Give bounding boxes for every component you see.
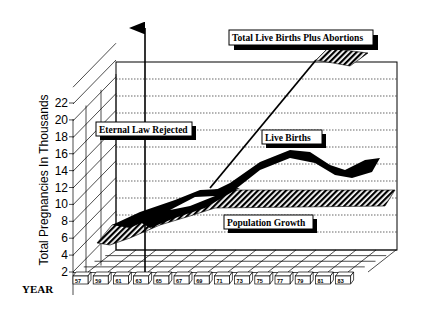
svg-text:Eternal Law Rejected: Eternal Law Rejected — [99, 125, 188, 135]
y-axis-ticks: 246810121416182022 — [55, 96, 74, 279]
x-tick-label: 79 — [297, 278, 303, 284]
y-tick-label: 6 — [61, 231, 68, 245]
x-tick-label: 73 — [237, 278, 243, 284]
svg-text:Total Live Births Plus Abortio: Total Live Births Plus Abortions — [232, 33, 363, 43]
x-tick-label: 81 — [317, 278, 323, 284]
y-tick-label: 22 — [55, 96, 69, 110]
y-tick-label: 12 — [55, 181, 69, 195]
total-ribbon-end — [316, 48, 368, 66]
y-tick-label: 10 — [55, 197, 69, 211]
svg-text:Population Growth: Population Growth — [227, 218, 306, 228]
y-tick-label: 8 — [61, 214, 68, 228]
svg-text:Live Births: Live Births — [265, 133, 311, 143]
x-axis-label: YEAR — [22, 283, 54, 295]
x-tick-label: 83 — [338, 278, 344, 284]
y-tick-label: 2 — [61, 265, 68, 279]
annotation-total-live-births-plus-abortions: Total Live Births Plus Abortions — [229, 30, 378, 50]
y-tick-label: 4 — [61, 248, 68, 262]
y-tick-label: 20 — [55, 113, 69, 127]
annotation-population-growth: Population Growth — [224, 215, 317, 233]
y-tick-label: 16 — [55, 147, 69, 161]
pregnancy-chart: 246810121416182022 575961636567697173757… — [0, 0, 428, 310]
x-tick-label: 57 — [75, 278, 81, 284]
y-axis-label: Total Pregnancies In Thousands — [37, 94, 51, 265]
y-tick-label: 14 — [55, 164, 69, 178]
annotation-live-births: Live Births — [262, 130, 326, 148]
x-tick-label: 59 — [95, 278, 101, 284]
x-tick-label: 67 — [176, 278, 182, 284]
x-tick-label: 63 — [136, 278, 142, 284]
x-tick-label: 75 — [257, 278, 263, 284]
x-axis-ticks: 5759616365676971737577798183 — [73, 272, 354, 284]
x-tick-label: 69 — [196, 278, 202, 284]
y-tick-label: 18 — [55, 130, 69, 144]
annotation-eternal-law-rejected: Eternal Law Rejected — [96, 122, 196, 140]
x-tick-label: 71 — [216, 278, 222, 284]
x-tick-label: 65 — [156, 278, 162, 284]
x-tick-label: 77 — [277, 278, 283, 284]
x-tick-label: 61 — [115, 278, 121, 284]
